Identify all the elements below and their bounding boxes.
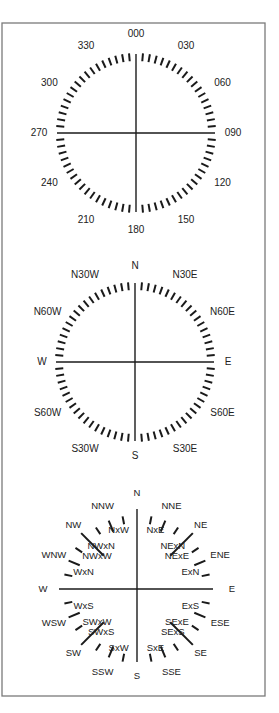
bearing-tick [208, 126, 216, 127]
bearing-tick [75, 179, 81, 184]
bearing-tick [89, 296, 94, 303]
bearing-tick [84, 301, 89, 307]
bearing-tick [166, 198, 169, 205]
bearing-tick [205, 381, 213, 383]
bearing-tick [114, 285, 116, 293]
bearing-tick [115, 56, 117, 64]
bearing-tick [108, 287, 111, 295]
bearing-tick [75, 82, 81, 87]
bearing-tick [166, 61, 169, 68]
bearing-tick [90, 192, 95, 199]
bearing-tick [207, 119, 215, 120]
bearing-tick [70, 87, 77, 92]
compass-rose-figure: 000030060090120150180210240270300330NN30… [0, 0, 279, 713]
bearing-tick [63, 392, 70, 395]
bearing-tick [85, 188, 90, 194]
bearing-tick [200, 328, 207, 331]
point-tick-wnw [69, 561, 80, 566]
point-tick-nexe [192, 548, 199, 552]
bearing-tick [102, 198, 105, 205]
bearing-tick [63, 328, 70, 331]
bearing-tick [55, 355, 63, 356]
bearing-tick [203, 335, 211, 338]
bearing-tick [67, 93, 74, 97]
bearing-tick [79, 184, 85, 190]
bearing-tick [129, 205, 130, 213]
degree-compass-rose [56, 53, 215, 212]
point-tick-nne [161, 521, 166, 532]
point-tick-nexn [174, 527, 178, 534]
bearing-tick [78, 413, 84, 419]
bearing-tick [187, 184, 193, 190]
bearing-tick [142, 53, 143, 61]
bearing-tick [149, 204, 150, 212]
bearing-tick [186, 413, 192, 419]
bearing-tick [205, 341, 213, 343]
bearing-tick [101, 290, 104, 297]
bearing-tick [122, 204, 123, 212]
point-tick-nw [81, 533, 104, 556]
point-tick-nxw [123, 516, 125, 524]
bearing-tick [155, 56, 157, 64]
bearing-tick [171, 424, 175, 431]
point-tick-ne [170, 533, 193, 556]
bearing-tick [95, 293, 99, 300]
bearing-tick [208, 139, 216, 140]
bearing-tick [171, 293, 175, 300]
bearing-tick [61, 158, 69, 161]
bearing-tick [142, 205, 143, 213]
bearing-tick [182, 72, 187, 78]
bearing-tick [197, 398, 204, 402]
compass-rose-canvas [0, 0, 279, 713]
quadrant-bearing-compass-rose [55, 282, 214, 441]
bearing-tick [96, 195, 100, 202]
bearing-tick [206, 152, 214, 154]
point-tick-exs [202, 602, 210, 604]
figure-frame [2, 23, 265, 696]
bearing-tick [96, 64, 100, 71]
bearing-tick [206, 348, 214, 349]
thirty-two-point-compass-rose [59, 509, 213, 662]
bearing-tick [207, 368, 215, 369]
bearing-tick [206, 375, 214, 376]
bearing-tick [149, 54, 150, 62]
bearing-tick [69, 403, 76, 408]
bearing-tick [85, 72, 90, 78]
bearing-tick [60, 387, 68, 390]
bearing-tick [78, 305, 84, 311]
bearing-tick [56, 348, 64, 349]
bearing-tick [121, 283, 122, 291]
bearing-tick [161, 201, 164, 209]
bearing-tick [181, 417, 186, 423]
point-tick-nxe [150, 516, 152, 524]
bearing-tick [204, 106, 212, 109]
bearing-tick [59, 152, 67, 154]
bearing-tick [84, 417, 89, 423]
bearing-tick [154, 285, 156, 293]
bearing-tick [198, 169, 205, 173]
bearing-tick [70, 174, 77, 179]
bearing-tick [60, 335, 68, 338]
point-tick-swxw [75, 626, 82, 630]
bearing-tick [74, 408, 80, 413]
bearing-tick [191, 82, 197, 87]
point-tick-nwxw [75, 548, 82, 552]
point-tick-sw [81, 622, 104, 645]
bearing-tick [102, 61, 105, 68]
bearing-tick [165, 290, 168, 297]
bearing-tick [154, 432, 156, 440]
bearing-tick [121, 433, 122, 441]
bearing-tick [195, 87, 202, 92]
bearing-tick [148, 283, 149, 291]
bearing-tick [176, 296, 181, 303]
bearing-tick [187, 76, 193, 82]
bearing-tick [57, 119, 65, 120]
bearing-tick [160, 430, 163, 438]
bearing-tick [161, 58, 164, 66]
bearing-tick [58, 341, 66, 343]
bearing-tick [109, 201, 112, 209]
bearing-tick [177, 67, 182, 74]
bearing-tick [207, 355, 215, 356]
bearing-tick [89, 421, 94, 428]
point-tick-sse [161, 646, 166, 657]
